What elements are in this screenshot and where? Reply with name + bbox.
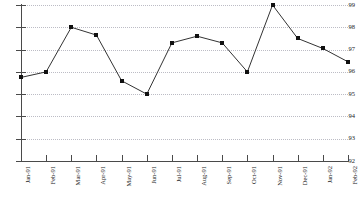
x-axis-tick-label: Nov-91 bbox=[276, 166, 283, 186]
data-point-marker bbox=[120, 79, 124, 83]
y-axis-tick-label: 93 bbox=[339, 135, 355, 142]
data-point-marker bbox=[346, 60, 350, 64]
y-axis-tick-label: 99 bbox=[339, 2, 355, 9]
x-axis-tick bbox=[247, 155, 248, 162]
x-axis-tick bbox=[172, 155, 173, 162]
y-axis-tick bbox=[16, 94, 26, 95]
data-point-marker bbox=[296, 36, 300, 40]
data-point-marker bbox=[271, 3, 275, 7]
x-axis-tick-label: Dec-91 bbox=[301, 166, 308, 185]
y-axis-tick bbox=[16, 50, 26, 51]
x-axis-tick-label: Aug-91 bbox=[200, 166, 207, 186]
x-axis-tick-label: Jan-91 bbox=[24, 166, 31, 183]
x-axis-tick-label: Oct-91 bbox=[250, 166, 257, 184]
y-axis-tick bbox=[16, 116, 26, 117]
gridline bbox=[21, 72, 350, 73]
x-axis-tick bbox=[273, 155, 274, 162]
data-point-marker bbox=[195, 34, 199, 38]
gridline bbox=[21, 50, 350, 51]
gridline bbox=[21, 94, 350, 95]
x-axis-tick bbox=[96, 155, 97, 162]
x-axis-tick-label: Feb-92 bbox=[351, 166, 358, 184]
x-axis-tick bbox=[197, 155, 198, 162]
y-axis-tick-label: 97 bbox=[339, 46, 355, 53]
data-point-marker bbox=[170, 41, 174, 45]
y-axis-tick bbox=[16, 139, 26, 140]
y-axis-tick bbox=[16, 5, 26, 6]
data-point-marker bbox=[19, 75, 23, 79]
x-axis-tick bbox=[222, 155, 223, 162]
x-axis-tick bbox=[348, 155, 349, 162]
x-axis-tick bbox=[46, 155, 47, 162]
x-axis-tick-label: Jul-91 bbox=[175, 166, 182, 182]
gridline bbox=[21, 116, 350, 117]
y-axis-tick-label: 98 bbox=[339, 24, 355, 31]
y-axis-tick bbox=[16, 72, 26, 73]
data-point-marker bbox=[94, 33, 98, 37]
y-axis-tick bbox=[16, 27, 26, 28]
gridline bbox=[21, 5, 350, 6]
x-axis-tick bbox=[298, 155, 299, 162]
y-axis-tick-label: 96 bbox=[339, 68, 355, 75]
x-axis-tick bbox=[147, 155, 148, 162]
data-point-marker bbox=[321, 46, 325, 50]
y-axis-tick-label: 95 bbox=[339, 91, 355, 98]
data-point-marker bbox=[245, 70, 249, 74]
x-axis-tick bbox=[21, 155, 22, 162]
data-point-marker bbox=[69, 25, 73, 29]
y-axis-tick-label: 94 bbox=[339, 113, 355, 120]
x-axis-tick bbox=[122, 155, 123, 162]
x-axis-tick-label: Jun-91 bbox=[150, 166, 157, 184]
x-axis-tick bbox=[71, 155, 72, 162]
data-point-marker bbox=[220, 41, 224, 45]
gridline bbox=[21, 139, 350, 140]
x-axis-line bbox=[21, 161, 348, 162]
y-axis-tick-label: 92 bbox=[339, 158, 355, 165]
x-axis-tick-label: Jan-92 bbox=[326, 166, 333, 183]
data-point-marker bbox=[145, 92, 149, 96]
x-axis-tick-label: Feb-91 bbox=[49, 166, 56, 184]
x-axis-tick-label: Apr-91 bbox=[99, 166, 106, 185]
x-axis-tick-label: Mar-91 bbox=[74, 166, 81, 185]
data-point-marker bbox=[44, 70, 48, 74]
x-axis-tick bbox=[323, 155, 324, 162]
x-axis-tick-label: May-91 bbox=[125, 166, 132, 187]
x-axis-tick-label: Sep-91 bbox=[225, 166, 232, 184]
